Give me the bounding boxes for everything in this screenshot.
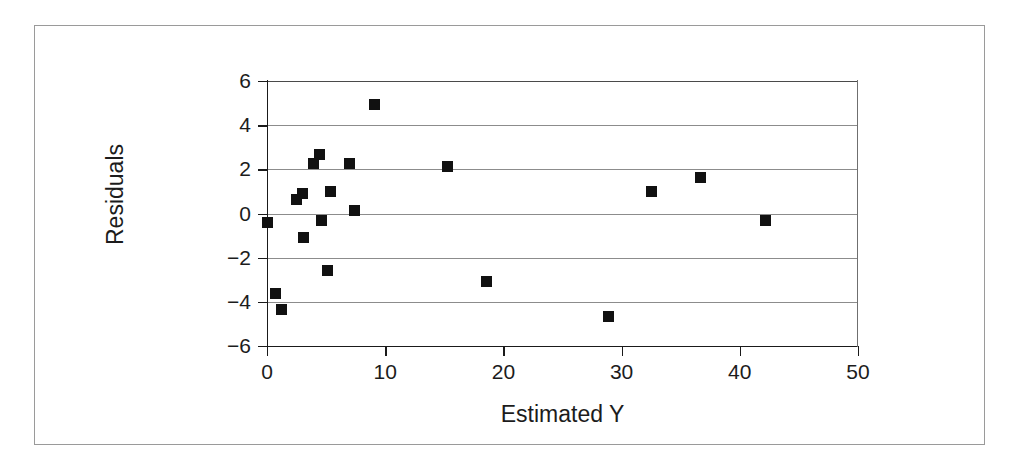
data-point (322, 265, 333, 276)
data-point (276, 304, 287, 315)
y-tick-label--4: −4 (211, 291, 251, 312)
x-tick-label-30: 30 (592, 361, 652, 382)
y-tick-label-0: 0 (211, 203, 251, 224)
x-tick-label-20: 20 (473, 361, 533, 382)
data-point (316, 215, 327, 226)
data-point (442, 161, 453, 172)
data-point (314, 149, 325, 160)
data-point (325, 186, 336, 197)
x-tick-label-10: 10 (355, 361, 415, 382)
x-tick-10 (385, 347, 386, 356)
x-tick-50 (858, 347, 859, 356)
x-axis-line (267, 346, 859, 347)
x-tick-0 (267, 347, 268, 356)
x-tick-label-0: 0 (237, 361, 297, 382)
data-point (298, 232, 309, 243)
x-tick-40 (740, 347, 741, 356)
y-tick-label-4: 4 (211, 114, 251, 135)
y-tick-label-2: 2 (211, 158, 251, 179)
data-point (344, 158, 355, 169)
x-tick-30 (622, 347, 623, 356)
x-tick-label-50: 50 (828, 361, 888, 382)
x-tick-label-40: 40 (710, 361, 770, 382)
data-point (270, 288, 281, 299)
y-axis-title: Residuals (102, 95, 129, 295)
data-point (297, 188, 308, 199)
data-point (481, 276, 492, 287)
y-tick-label--6: −6 (211, 335, 251, 356)
figure-border: −6−4−20246 01020304050 Residuals Estimat… (34, 25, 985, 445)
x-axis-title: Estimated Y (267, 401, 858, 428)
data-point (695, 172, 706, 183)
data-point (646, 186, 657, 197)
data-point (369, 99, 380, 110)
data-point (262, 217, 273, 228)
x-tick-20 (503, 347, 504, 356)
y-tick-label-6: 6 (211, 70, 251, 91)
y-tick-label--2: −2 (211, 247, 251, 268)
data-point (603, 311, 614, 322)
data-point (349, 205, 360, 216)
data-point (760, 215, 771, 226)
